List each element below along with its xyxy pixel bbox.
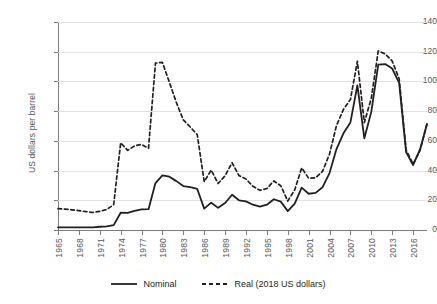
x-tick-label-1995: 1995 xyxy=(263,238,273,258)
x-tick-label-2004: 2004 xyxy=(326,238,336,258)
x-tick-label-1986: 1986 xyxy=(200,238,210,258)
x-tick-1971 xyxy=(100,231,101,235)
x-tick-2016 xyxy=(413,231,414,235)
x-tick-2010 xyxy=(371,231,372,235)
x-tick-label-1968: 1968 xyxy=(75,238,85,258)
x-tick-label-2010: 2010 xyxy=(367,238,377,258)
oil-price-chart: US dollars per barrel 020406080100120140… xyxy=(0,0,437,304)
x-tick-label-1971: 1971 xyxy=(96,238,106,258)
legend-label-nominal: Nominal xyxy=(143,279,176,289)
x-tick-label-2001: 2001 xyxy=(305,238,315,258)
x-tick-label-1983: 1983 xyxy=(179,238,189,258)
x-tick-2013 xyxy=(392,231,393,235)
series-paths xyxy=(58,22,427,230)
series-line-real xyxy=(58,51,427,213)
x-tick-1986 xyxy=(204,231,205,235)
x-tick-label-1998: 1998 xyxy=(284,238,294,258)
plot-area xyxy=(58,22,427,230)
x-tick-label-1977: 1977 xyxy=(138,238,148,258)
legend-item-real: Real (2018 US dollars) xyxy=(202,279,325,289)
x-tick-1974 xyxy=(121,231,122,235)
x-tick-1965 xyxy=(58,231,59,235)
x-tick-label-1989: 1989 xyxy=(221,238,231,258)
legend-item-nominal: Nominal xyxy=(111,279,176,289)
x-tick-1995 xyxy=(267,231,268,235)
y-axis-group: US dollars per barrel xyxy=(0,0,52,304)
x-tick-1968 xyxy=(79,231,80,235)
x-tick-1998 xyxy=(288,231,289,235)
x-tick-1983 xyxy=(183,231,184,235)
x-tick-2001 xyxy=(309,231,310,235)
x-tick-2004 xyxy=(330,231,331,235)
x-tick-label-2007: 2007 xyxy=(346,238,356,258)
x-tick-label-2016: 2016 xyxy=(409,238,419,258)
x-tick-label-1974: 1974 xyxy=(117,238,127,258)
x-tick-label-2013: 2013 xyxy=(388,238,398,258)
y-axis-title: US dollars per barrel xyxy=(27,53,37,213)
chart-legend: Nominal Real (2018 US dollars) xyxy=(0,279,437,289)
x-tick-1980 xyxy=(162,231,163,235)
x-tick-2007 xyxy=(350,231,351,235)
legend-swatch-solid xyxy=(111,280,137,288)
x-tick-1992 xyxy=(246,231,247,235)
x-tick-label-1992: 1992 xyxy=(242,238,252,258)
legend-swatch-dashed xyxy=(202,280,228,288)
x-tick-label-1965: 1965 xyxy=(54,238,64,258)
x-tick-1977 xyxy=(142,231,143,235)
x-tick-label-1980: 1980 xyxy=(158,238,168,258)
x-tick-1989 xyxy=(225,231,226,235)
legend-label-real: Real (2018 US dollars) xyxy=(234,279,325,289)
